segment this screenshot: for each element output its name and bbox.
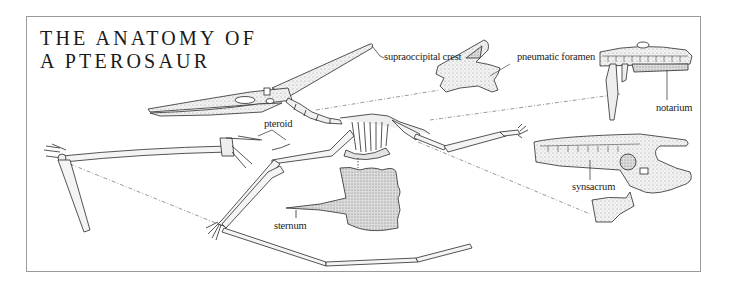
label-synsacrum: synsacrum <box>572 181 615 192</box>
synsacrum-inset <box>534 134 691 222</box>
label-notarium: notarium <box>656 102 692 113</box>
label-sternum: sternum <box>274 220 306 231</box>
neck-vertebrae <box>286 98 342 124</box>
right-wing-arm <box>392 120 528 152</box>
label-pteroid: pteroid <box>264 118 292 129</box>
pterosaur-skeleton-illustration <box>0 0 731 285</box>
label-supraoccipital-crest: supraoccipital crest <box>384 51 461 62</box>
crest-leader <box>372 46 384 58</box>
pteroid-bone <box>238 136 290 150</box>
pteroid-leader <box>258 130 286 140</box>
skull <box>148 44 373 116</box>
label-pneumatic-foramen: pneumatic foramen <box>517 51 595 62</box>
vertebra-inset <box>436 40 510 92</box>
